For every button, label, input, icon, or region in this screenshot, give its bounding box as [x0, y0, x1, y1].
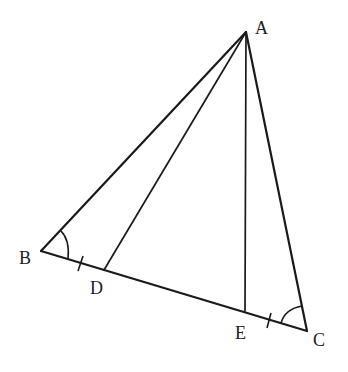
angle-mark-B: [61, 231, 68, 259]
segment-AC: [246, 32, 307, 331]
segment-AB: [41, 32, 246, 251]
label-A: A: [255, 18, 268, 38]
angle-mark-C: [281, 306, 302, 323]
segment-AD: [104, 32, 246, 270]
label-B: B: [19, 248, 31, 268]
segment-AE: [245, 32, 246, 311]
label-D: D: [90, 278, 103, 298]
label-C: C: [313, 330, 325, 350]
triangle-diagram: A B D E C: [0, 0, 348, 372]
label-E: E: [235, 323, 246, 343]
